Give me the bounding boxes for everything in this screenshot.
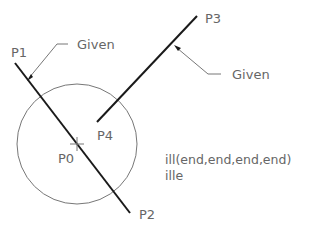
- label-p3: P3: [205, 11, 221, 26]
- label-given-1: Given: [77, 37, 115, 52]
- label-p1: P1: [11, 45, 27, 60]
- label-given-2: Given: [232, 67, 270, 82]
- command-line-2: ille: [165, 168, 183, 183]
- label-p2: P2: [139, 207, 155, 222]
- leader-given-2: [174, 45, 221, 74]
- diagram-canvas: P1 Given P3 Given P4 P0 P2 ill(end,end,e…: [0, 0, 320, 231]
- line-p3-p4: [97, 16, 197, 122]
- label-p4: P4: [97, 128, 113, 143]
- command-line-1: ill(end,end,end,end): [165, 152, 291, 167]
- leader-given-1: [27, 44, 68, 81]
- label-p0: P0: [58, 151, 74, 166]
